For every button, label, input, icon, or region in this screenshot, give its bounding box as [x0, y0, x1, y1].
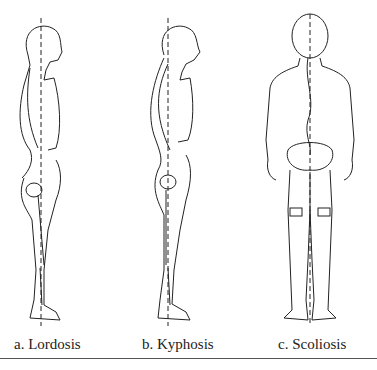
- bottom-rule: [0, 358, 377, 359]
- lordosis-figure: [0, 0, 125, 330]
- caption-kyphosis: b. Kyphosis: [142, 336, 214, 353]
- caption-scoliosis: c. Scoliosis: [278, 336, 346, 353]
- caption-lordosis: a. Lordosis: [14, 336, 81, 353]
- kyphosis-figure: [130, 0, 250, 330]
- scoliosis-figure: [250, 0, 377, 330]
